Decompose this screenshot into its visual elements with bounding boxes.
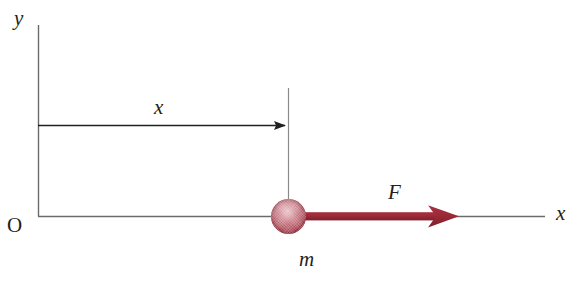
displacement-label: x (154, 97, 163, 118)
y-axis-label: y (14, 8, 23, 29)
force-label: F (388, 182, 401, 203)
mass-sphere (271, 199, 306, 234)
x-axis-label: x (556, 203, 565, 224)
physics-diagram-canvas: y x O x m F (0, 0, 588, 282)
origin-label: O (7, 215, 22, 236)
force-vector-arrow (303, 205, 459, 227)
diagram-vector-layer (0, 0, 588, 282)
mass-label: m (299, 249, 314, 270)
